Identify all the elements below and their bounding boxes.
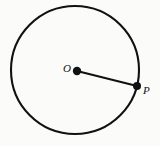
point-label-p: P	[143, 85, 150, 96]
point-label-o: O	[63, 63, 71, 74]
center-point-o-dot	[73, 67, 81, 75]
geometry-figure: O P	[0, 0, 160, 146]
circle-diagram-canvas	[0, 0, 160, 146]
radius-segment-op	[77, 71, 137, 86]
point-p-dot	[133, 82, 141, 90]
